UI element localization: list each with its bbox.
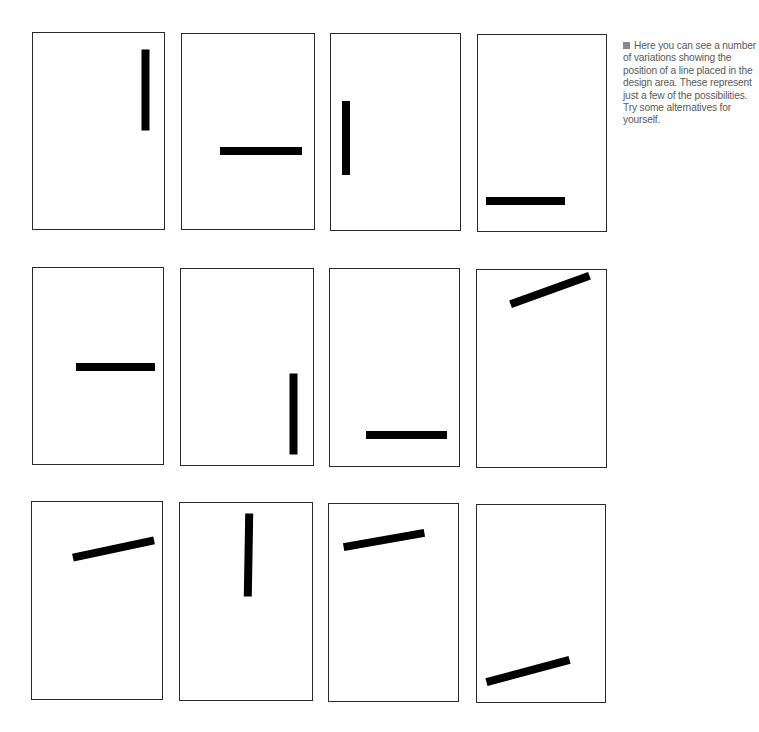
design-area-panel-9 <box>31 501 163 700</box>
placed-line-10 <box>243 513 252 596</box>
placed-line-3 <box>342 101 350 175</box>
design-area-panel-2 <box>181 33 315 230</box>
placed-line-4 <box>486 197 565 205</box>
square-bullet-icon <box>623 42 630 49</box>
design-area-panel-8 <box>476 269 607 468</box>
caption: Here you can see a number of variations … <box>623 40 759 127</box>
placed-line-5 <box>76 363 155 371</box>
placed-line-7 <box>366 431 447 439</box>
placed-line-6 <box>289 374 297 455</box>
placed-line-1 <box>141 50 149 131</box>
design-area-panel-11 <box>328 503 459 702</box>
caption-text: Here you can see a number of variations … <box>623 40 756 125</box>
placed-line-2 <box>220 147 302 155</box>
design-area-panel-12 <box>476 504 606 703</box>
